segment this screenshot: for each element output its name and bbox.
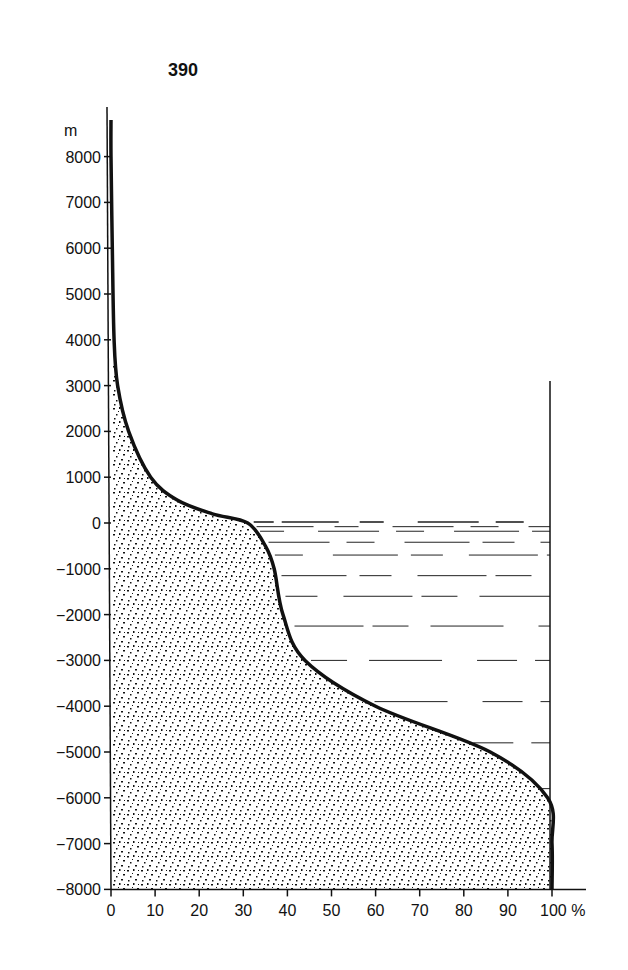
svg-text:−7000: −7000 [56, 836, 101, 853]
svg-text:20: 20 [190, 902, 208, 919]
svg-text:80: 80 [455, 902, 473, 919]
svg-text:−2000: −2000 [56, 607, 101, 624]
svg-text:100 %: 100 % [540, 902, 585, 919]
y-axis-unit-label: m [64, 122, 77, 139]
svg-text:60: 60 [367, 902, 385, 919]
x-axis-ticks: 0102030405060708090100 % [107, 889, 586, 919]
svg-text:−8000: −8000 [56, 881, 101, 898]
svg-text:1000: 1000 [65, 469, 101, 486]
svg-text:30: 30 [234, 902, 252, 919]
svg-text:4000: 4000 [65, 332, 101, 349]
svg-text:2000: 2000 [65, 423, 101, 440]
y-axis-ticks: 800070006000500040003000200010000−1000−2… [56, 149, 111, 899]
svg-text:−3000: −3000 [56, 652, 101, 669]
svg-text:50: 50 [323, 902, 341, 919]
svg-text:70: 70 [411, 902, 429, 919]
svg-text:5000: 5000 [65, 286, 101, 303]
svg-text:0: 0 [92, 515, 101, 532]
svg-text:10: 10 [146, 902, 164, 919]
svg-text:0: 0 [107, 902, 116, 919]
svg-text:−4000: −4000 [56, 698, 101, 715]
svg-text:−1000: −1000 [56, 561, 101, 578]
hypsographic-chart: m 800070006000500040003000200010000−1000… [0, 0, 628, 970]
svg-text:3000: 3000 [65, 378, 101, 395]
svg-text:6000: 6000 [65, 240, 101, 257]
svg-text:−5000: −5000 [56, 744, 101, 761]
svg-text:90: 90 [499, 902, 517, 919]
svg-text:40: 40 [279, 902, 297, 919]
svg-text:−6000: −6000 [56, 790, 101, 807]
svg-text:7000: 7000 [65, 194, 101, 211]
stippled-land-area [111, 120, 554, 889]
svg-text:8000: 8000 [65, 149, 101, 166]
